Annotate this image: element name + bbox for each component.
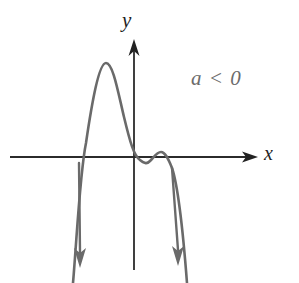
left-branch-tail	[79, 163, 80, 252]
y-axis-label: y	[122, 10, 131, 31]
leading-coefficient-annotation: a < 0	[191, 68, 242, 89]
figure-background	[0, 0, 299, 283]
x-axis-label: x	[264, 143, 273, 163]
polynomial-graph-figure	[0, 0, 299, 283]
